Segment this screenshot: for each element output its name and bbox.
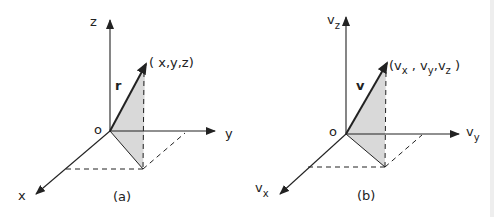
x-axis-a	[36, 131, 110, 194]
vector-label-v: v	[356, 78, 365, 93]
caption-b: (b)	[357, 188, 375, 203]
panel-b: vz vy vx o v (vx , vy,vz ) (b)	[255, 12, 480, 203]
vx-label: vx	[255, 180, 269, 199]
vy-label: vy	[466, 124, 480, 143]
z-label-a: z	[90, 14, 97, 29]
y-label-a: y	[225, 126, 233, 141]
diagram-svg: z y x o r ( x,y,z) (a) vz vy vx o v (vx …	[0, 0, 494, 217]
point-label-b: (vx , vy,vz )	[389, 58, 460, 76]
panel-a: z y x o r ( x,y,z) (a)	[18, 14, 233, 204]
origin-label-b: o	[329, 124, 337, 139]
vector-diagram: z y x o r ( x,y,z) (a) vz vy vx o v (vx …	[0, 0, 494, 217]
point-label-a: ( x,y,z)	[149, 55, 194, 70]
x-label-a: x	[18, 188, 26, 203]
vx-axis	[280, 134, 346, 194]
origin-label-a: o	[94, 122, 102, 137]
vz-label: vz	[327, 12, 340, 31]
vector-label-r: r	[115, 78, 122, 93]
caption-a: (a)	[113, 189, 131, 204]
dashed-y-a	[143, 133, 185, 169]
dashed-y-b	[385, 135, 422, 167]
